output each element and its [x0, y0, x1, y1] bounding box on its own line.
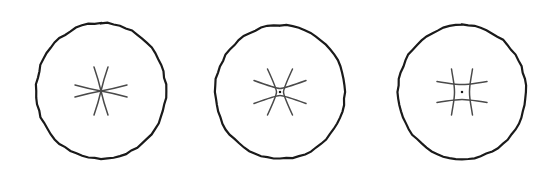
circle-with-pinched-star[interactable] — [36, 23, 166, 159]
circle-with-small-grid[interactable] — [215, 25, 345, 159]
circle-with-open-grid[interactable] — [398, 25, 526, 159]
figure-root — [0, 0, 553, 171]
